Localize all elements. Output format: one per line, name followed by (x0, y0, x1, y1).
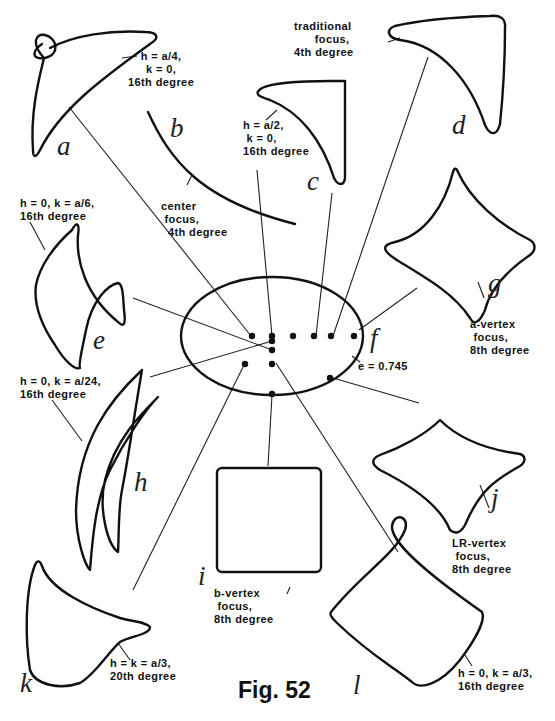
letter-l: l (353, 672, 361, 699)
label-i: b-vertex focus, 8th degree (214, 587, 274, 626)
label-d: traditional focus, 4th degree (294, 20, 354, 59)
curve-i (217, 468, 321, 572)
label-j: LR-vertex focus, 8th degree (452, 537, 512, 576)
focus-points (242, 333, 357, 397)
letter-d: d (452, 112, 466, 139)
letter-g: g (488, 270, 502, 297)
curve-e (36, 225, 125, 369)
label-b: center focus, 4th degree (161, 200, 228, 239)
label-a: h = a/4, k = 0, 16th degree (128, 50, 194, 89)
letter-i: i (198, 563, 206, 590)
letter-f: f (370, 325, 378, 352)
label-h: h = 0, k = a/24, 16th degree (20, 375, 101, 401)
curve-d (389, 16, 505, 133)
label-l: h = 0, k = a/3, 16th degree (458, 667, 533, 693)
figure-canvas (0, 0, 555, 721)
letter-j: j (491, 485, 499, 512)
curve-j (373, 420, 524, 533)
letter-c: c (307, 168, 319, 195)
label-f: e = 0.745 (358, 360, 408, 373)
curve-g (385, 169, 534, 322)
label-e: h = 0, k = a/6, 16th degree (20, 197, 95, 223)
letter-e: e (93, 327, 105, 354)
label-g: a-vertex focus, 8th degree (470, 318, 530, 357)
letter-h: h (134, 469, 148, 496)
letter-a: a (57, 133, 71, 160)
label-k: h = k = a/3, 20th degree (110, 657, 176, 683)
label-c: h = a/2, k = 0, 16th degree (243, 119, 309, 158)
letter-k: k (20, 670, 32, 697)
letter-b: b (170, 115, 184, 142)
figure-title: Fig. 52 (238, 677, 311, 704)
